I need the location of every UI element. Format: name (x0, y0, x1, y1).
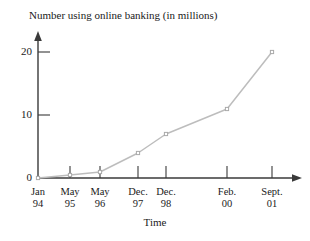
data-point-marker (164, 132, 167, 135)
data-point-marker (136, 151, 139, 154)
data-series-markers (36, 50, 273, 179)
y-tick-label-0: 0 (10, 172, 32, 183)
x-axis-title: Time (0, 216, 310, 228)
x-tick-label-line1: Feb. (218, 186, 236, 197)
data-point-marker (36, 176, 39, 179)
x-tick-label-line1: Sept. (261, 186, 282, 197)
x-tick-label-line1: May (90, 186, 109, 197)
x-tick-label-line2: 00 (204, 198, 250, 210)
data-point-marker (270, 50, 273, 53)
y-axis (34, 31, 42, 178)
x-tick-label-line1: Dec. (156, 186, 176, 197)
data-point-marker (98, 170, 101, 173)
data-point-marker (68, 173, 71, 176)
x-axis (38, 174, 302, 182)
x-tick-label-line2: 98 (143, 198, 189, 210)
x-tick-label-line2: 01 (249, 198, 295, 210)
y-axis-ticks (38, 52, 50, 115)
x-tick-label-feb-00: Feb. 00 (204, 186, 250, 210)
x-tick-label-sept-01: Sept. 01 (249, 186, 295, 210)
x-tick-label-dec-98: Dec. 98 (143, 186, 189, 210)
online-banking-line-chart: Number using online banking (in millions… (0, 0, 310, 241)
data-point-marker (225, 107, 228, 110)
x-tick-label-line1: Jan (31, 186, 45, 197)
y-tick-label-20: 20 (10, 46, 32, 57)
y-tick-label-10: 10 (10, 109, 32, 120)
data-series-line (38, 52, 272, 178)
